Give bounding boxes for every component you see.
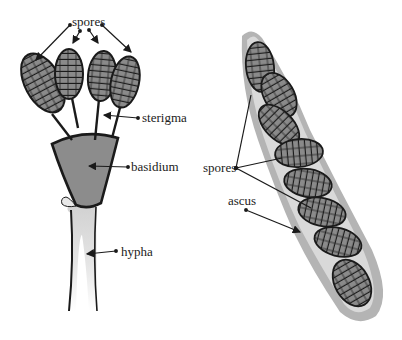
ascus-figure: spores ascus bbox=[203, 31, 383, 321]
label-ascus: ascus bbox=[228, 193, 256, 208]
label-sterigma: sterigma bbox=[142, 110, 187, 125]
fungal-spore-diagram: spores sterigma basidium hypha spores as… bbox=[0, 0, 402, 340]
label-basidium: basidium bbox=[131, 159, 179, 174]
basidium-figure: spores sterigma basidium hypha bbox=[12, 14, 187, 311]
label-spores-left: spores bbox=[72, 14, 105, 29]
ascospores bbox=[243, 41, 379, 313]
basidiospores bbox=[12, 46, 144, 119]
basidium bbox=[52, 134, 118, 207]
label-spores-right: spores bbox=[203, 160, 236, 175]
label-hypha: hypha bbox=[121, 244, 153, 259]
